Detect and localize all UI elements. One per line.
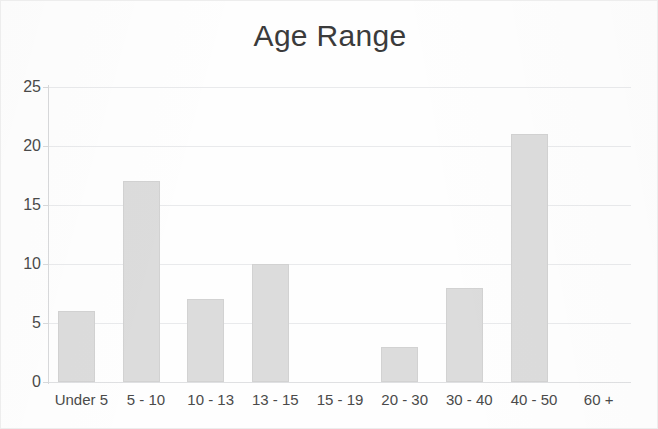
bar[interactable] [381, 347, 418, 382]
bar[interactable] [58, 311, 95, 382]
bar[interactable] [511, 134, 548, 382]
chart-figure: Age Range 0510152025 Under 55 - 1010 - 1… [0, 0, 658, 429]
bar-slot [308, 87, 373, 382]
y-tick-label-10: 10 [7, 255, 41, 273]
bar-slot [372, 87, 437, 382]
gridline-0 [49, 382, 631, 383]
x-axis-tick-labels: Under 55 - 1010 - 1313 - 1515 - 1920 - 3… [49, 391, 631, 421]
y-tick-mark-10 [43, 264, 49, 265]
bar-slot [566, 87, 631, 382]
y-tick-label-15: 15 [7, 196, 41, 214]
plot-area [49, 87, 631, 382]
bar[interactable] [446, 288, 483, 382]
y-axis-tick-labels: 0510152025 [1, 87, 41, 382]
bar-slot [178, 87, 243, 382]
y-tick-label-20: 20 [7, 137, 41, 155]
bar[interactable] [252, 264, 289, 382]
bar-slot [502, 87, 567, 382]
bar-slot [49, 87, 114, 382]
y-tick-label-0: 0 [7, 373, 41, 391]
y-tick-mark-25 [43, 87, 49, 88]
y-tick-label-25: 25 [7, 78, 41, 96]
bar-slot [243, 87, 308, 382]
x-tick-label-1: 5 - 10 [114, 391, 179, 408]
bar-slot [114, 87, 179, 382]
plot-canvas [49, 87, 631, 382]
y-tick-mark-15 [43, 205, 49, 206]
y-tick-mark-20 [43, 146, 49, 147]
x-tick-label-6: 30 - 40 [437, 391, 502, 408]
bar-slot [437, 87, 502, 382]
bar[interactable] [123, 181, 160, 382]
chart-title: Age Range [1, 19, 658, 53]
x-tick-label-5: 20 - 30 [372, 391, 437, 408]
x-tick-label-0: Under 5 [49, 391, 114, 408]
bar[interactable] [187, 299, 224, 382]
x-tick-label-8: 60 + [566, 391, 631, 408]
y-tick-mark-0 [43, 382, 49, 383]
x-tick-label-4: 15 - 19 [308, 391, 373, 408]
x-tick-label-7: 40 - 50 [502, 391, 567, 408]
y-tick-mark-5 [43, 323, 49, 324]
x-tick-label-3: 13 - 15 [243, 391, 308, 408]
x-tick-label-2: 10 - 13 [178, 391, 243, 408]
y-tick-label-5: 5 [7, 314, 41, 332]
